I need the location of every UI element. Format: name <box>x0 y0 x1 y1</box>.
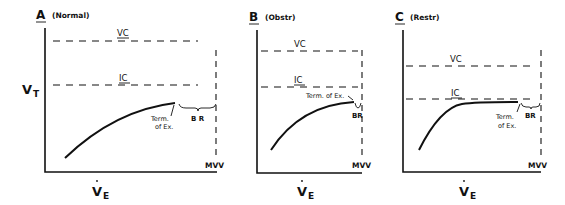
axes <box>403 30 541 172</box>
panel-subtitle: (Obstr) <box>265 13 295 22</box>
ventilation-diagram: V T A (Normal) VC IC MVV Term. of Ex. B … <box>0 0 565 205</box>
term-label-line1: Term. <box>150 115 169 123</box>
br-label: B R <box>191 115 205 123</box>
panel-letter: B <box>249 10 258 24</box>
br-label: BR <box>352 112 363 120</box>
mvv-label: MVV <box>205 161 224 170</box>
term-label-line1: Term. <box>495 113 514 121</box>
term-label-line2: of Ex. <box>155 123 173 131</box>
mvv-label: MVV <box>352 161 371 170</box>
vc-label: VC <box>450 54 462 64</box>
y-axis-label: V T <box>22 82 40 99</box>
axes <box>45 28 217 172</box>
vt-ve-curve <box>271 102 354 150</box>
term-label-line2: of Ex. <box>498 122 516 130</box>
ic-label: IC <box>294 75 303 85</box>
svg-text:E: E <box>308 191 314 201</box>
br-label: BR <box>525 112 536 120</box>
br-brace <box>179 104 216 111</box>
vc-label: VC <box>294 39 306 49</box>
svg-text:V: V <box>22 82 32 97</box>
svg-text:T: T <box>33 89 40 99</box>
svg-text:E: E <box>470 191 476 201</box>
panel-letter: C <box>395 10 404 24</box>
axes <box>257 30 362 173</box>
panel-a-normal: A (Normal) VC IC MVV Term. of Ex. B R V … <box>36 8 224 201</box>
vc-label: VC <box>117 28 129 38</box>
panel-b-obstr: B (Obstr) VC IC MVV Term. of Ex. BR V E <box>249 10 371 201</box>
ic-label: IC <box>119 73 128 83</box>
ic-label: IC <box>451 88 460 98</box>
x-axis-label: V <box>459 184 469 199</box>
panel-subtitle: (Restr) <box>410 13 439 22</box>
br-brace <box>521 103 540 109</box>
br-brace <box>355 103 361 108</box>
term-label: Term. of Ex. <box>305 92 344 100</box>
svg-text:E: E <box>103 191 109 201</box>
panel-letter: A <box>36 8 46 22</box>
x-axis-label: V <box>92 184 102 199</box>
panel-c-restr: C (Restr) VC IC MVV Term. of Ex. BR V E <box>395 10 547 201</box>
panel-subtitle: (Normal) <box>52 11 89 20</box>
mvv-label: MVV <box>528 161 547 170</box>
x-axis-label: V <box>297 184 307 199</box>
